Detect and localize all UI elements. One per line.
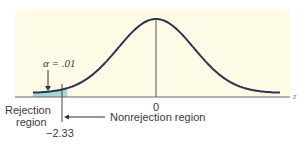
alpha-label: α = .01: [43, 57, 75, 69]
nonrejection-region-label: Nonrejection region: [110, 111, 205, 123]
rejection-region-label-line2: region: [16, 116, 47, 128]
critical-value-label: −2.33: [46, 127, 74, 139]
rejection-region-label-line1: Rejection: [5, 104, 51, 116]
nonrejection-arrowhead: [64, 115, 69, 120]
x-axis-label: z: [293, 90, 297, 102]
plot-background: [15, 10, 290, 97]
